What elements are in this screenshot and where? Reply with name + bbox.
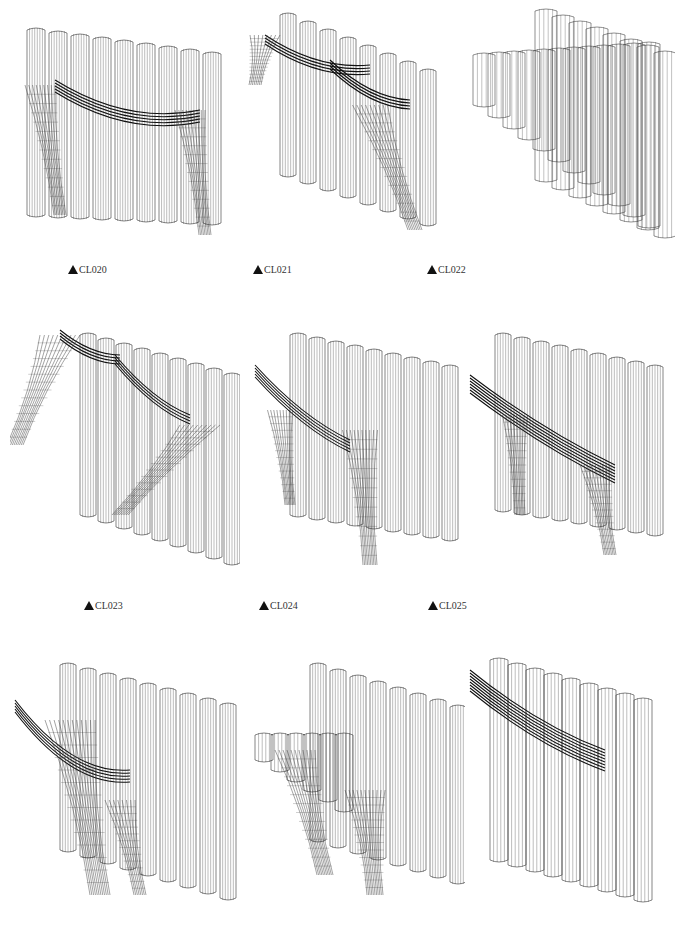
curtain-drawing-cl023 [10,315,240,585]
curtain-wireframe-swag [15,10,230,245]
curtain-drawing-cl020 [15,10,230,245]
curtain-wireframe-valance [465,315,675,585]
curtain-drawing-row3-right [465,650,675,910]
curtain-drawing-cl021 [240,5,455,245]
curtain-wireframe-draped [10,650,245,910]
triangle-up-icon [84,601,94,610]
curtain-drawing-cl025 [465,315,675,585]
curtain-wireframe-gathered [250,650,465,910]
caption-cl023: CL023 [84,600,123,611]
curtain-wireframe-tieback [250,320,460,585]
triangle-up-icon [428,601,438,610]
curtain-drawing-cl022 [465,5,675,250]
caption-cl025: CL025 [428,600,467,611]
curtain-drawing-row3-middle [250,650,465,910]
curtain-wireframe-tails [10,315,240,585]
curtain-drawing-row3-left [10,650,245,910]
curtain-drawing-cl024 [250,320,460,585]
curtain-wireframe-panels [465,5,675,250]
triangle-up-icon [253,265,263,274]
triangle-up-icon [68,265,78,274]
triangle-up-icon [427,265,437,274]
curtain-wireframe-double-swag [240,5,455,245]
caption-cl020: CL020 [68,264,107,275]
caption-cl021: CL021 [253,264,292,275]
caption-cl024: CL024 [259,600,298,611]
curtain-wireframe-pelmet [465,650,675,910]
caption-cl022: CL022 [427,264,466,275]
triangle-up-icon [259,601,269,610]
